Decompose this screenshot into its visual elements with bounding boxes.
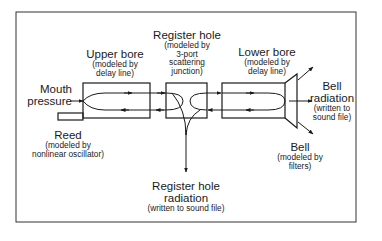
junction-curve-right	[190, 93, 207, 110]
upper-bore-forward-path	[83, 93, 166, 101]
lower-bore-note: delay line)	[226, 67, 308, 76]
lower-bore-box	[222, 83, 285, 118]
register-hole-box	[166, 83, 207, 118]
mouth-pressure-label: Mouth pressure	[16, 83, 72, 107]
bell-radiation-note: sound file)	[307, 113, 357, 122]
bell-radiation-arrow-down	[298, 122, 313, 134]
bell-radiation-label: Bell radiation (written to sound file)	[307, 80, 357, 122]
mouth-title2: pressure	[16, 95, 72, 107]
register-hole-note: junction)	[146, 67, 228, 76]
reed-note: nonlinear oscillator)	[28, 150, 108, 159]
upper-bore-box	[83, 83, 150, 118]
lower-bore-backward-path	[222, 101, 285, 110]
lower-bore-label: Lower bore (modeled by delay line)	[226, 46, 308, 75]
register-radiation-note: (written to sound file)	[141, 204, 231, 213]
upper-bore-backward-path	[83, 101, 166, 110]
reed-label: Reed (modeled by nonlinear oscillator)	[28, 129, 108, 158]
junction-radiation-right	[186, 110, 200, 135]
bell-radiation-title: Bell	[307, 80, 357, 92]
upper-bore-label: Upper bore (modeled by delay line)	[74, 48, 156, 77]
register-hole-label: Register hole (modeled by 3-port scatter…	[146, 29, 228, 76]
register-radiation-title: Register hole	[141, 180, 231, 192]
bell-label: Bell (modeled by filters)	[265, 141, 335, 170]
mouth-title: Mouth	[16, 83, 72, 95]
reed-box	[58, 113, 83, 120]
bell-note: filters)	[265, 162, 335, 171]
junction-radiation-left	[172, 93, 186, 135]
upper-bore-note: delay line)	[74, 69, 156, 78]
lower-bore-forward-path	[222, 93, 285, 101]
register-radiation-label: Register hole radiation (written to soun…	[141, 180, 231, 213]
